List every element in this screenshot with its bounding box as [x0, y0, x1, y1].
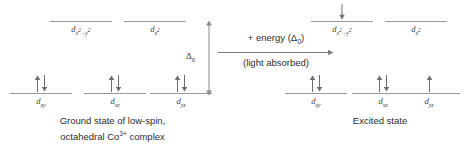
excited-t2g-electrons-dxy — [285, 72, 347, 92]
double-headed-arrow-icon — [203, 20, 215, 96]
label-sub-mid: −y — [342, 30, 349, 36]
caption-line-2-post: complex — [127, 131, 165, 142]
orbital-label-dx2y2: dx2−y2 — [50, 24, 112, 36]
label-sub: yz — [181, 102, 186, 108]
label-sup: 2 — [418, 27, 421, 33]
reaction-top-pre: + energy (Δ — [248, 32, 297, 43]
orbital-label-dyz: dyz — [398, 96, 460, 108]
caption-line-2-pre: octahedral Co — [60, 131, 119, 142]
label-sub: xy — [40, 102, 45, 108]
electron-arrow-down — [115, 75, 122, 92]
excitation-reaction-arrow: + energy (Δ0) (light absorbed) — [216, 32, 336, 69]
orbital-line — [398, 93, 460, 94]
electron-arrow-down — [336, 4, 348, 20]
electron-arrow-down — [316, 75, 323, 92]
splitting-energy-label: Δ0 — [186, 51, 195, 63]
promoted-electron-arrow-container — [336, 4, 348, 20]
label-sub-mid: −y — [81, 30, 88, 36]
right-arrow-icon — [218, 49, 334, 56]
ground-state-caption: Ground state of low-spin, octahedral Co3… — [20, 115, 205, 143]
label-sub: xy — [315, 102, 320, 108]
caption-line-2: octahedral Co3+ complex — [20, 128, 205, 144]
orbital-line — [385, 21, 447, 22]
caption-line-1: Ground state of low-spin, — [20, 115, 205, 128]
electron-arrow-down — [383, 75, 390, 92]
reaction-bottom-label: (light absorbed) — [216, 57, 336, 69]
orbital-line — [50, 21, 112, 22]
orbital-label-dxy: dxy — [285, 96, 347, 108]
charge-superscript: 3+ — [119, 130, 126, 137]
orbital-line — [311, 21, 373, 22]
orbital-label-dz2: dz2 — [124, 24, 186, 36]
excited-t2g-electrons-dyz — [398, 72, 460, 92]
label-sub: xz — [115, 102, 120, 108]
caption-line-1: Excited state — [300, 115, 460, 128]
delta-subscript: 0 — [192, 56, 195, 63]
orbital-label-dxy: dxy — [10, 96, 72, 108]
orbital-label-dyz: dyz — [150, 96, 212, 108]
orbital-line — [124, 21, 186, 22]
ground-t2g-electrons-dxy — [10, 72, 72, 92]
orbital-label-dxz: dxz — [84, 96, 146, 108]
orbital-line — [10, 93, 72, 94]
orbital-line — [285, 93, 347, 94]
ground-t2g-electrons-dxz — [84, 72, 146, 92]
electron-arrow-up — [34, 75, 41, 92]
electron-arrow-down — [41, 75, 48, 92]
orbital-line — [84, 93, 146, 94]
electron-arrow-up — [426, 75, 433, 92]
label-sub: yz — [429, 102, 434, 108]
orbital-label-dz2: dz2 — [385, 24, 447, 36]
electron-arrow-up — [309, 75, 316, 92]
electron-arrow-up — [108, 75, 115, 92]
reaction-top-post: ) — [301, 32, 304, 43]
label-sub: xz — [383, 102, 388, 108]
electron-arrow-down — [181, 75, 188, 92]
label-sup-post: 2 — [349, 27, 352, 33]
label-sup-post: 2 — [88, 27, 91, 33]
label-sup: 2 — [157, 27, 160, 33]
orbital-label-dx2y2: dx2−y2 — [311, 24, 373, 36]
electron-arrow-up — [174, 75, 181, 92]
excited-state-caption: Excited state — [300, 115, 460, 128]
orbital-energy-diagram: dx2−y2 dz2 dxy — [0, 0, 467, 147]
crystal-field-splitting-arrow — [203, 20, 215, 96]
electron-arrow-up — [376, 75, 383, 92]
